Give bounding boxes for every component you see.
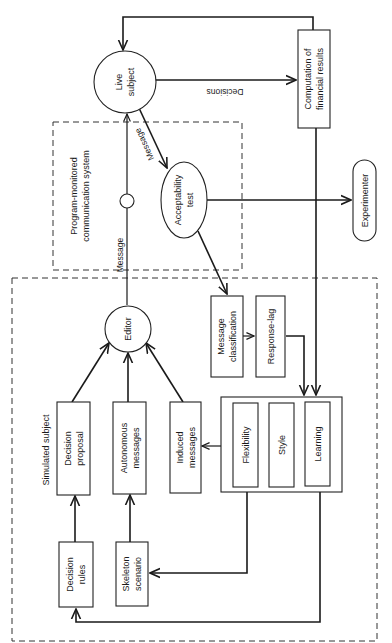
editor-node: Editor: [105, 306, 151, 352]
skeleton-scenario-label-2: scenario: [133, 557, 143, 591]
message-edge-label-1: Message: [132, 126, 156, 162]
live-subject-label-2: subject: [126, 67, 136, 96]
live-subject-node: Live subject: [94, 51, 156, 113]
learning-label: Learning: [313, 426, 323, 461]
live-subject-label-1: Live: [114, 74, 124, 91]
acceptability-test-node: Acceptability test: [161, 162, 207, 238]
style-node: Style: [269, 403, 294, 487]
response-lag-label: Response-lag: [266, 309, 276, 365]
simulated-subject-label: Simulated subject: [41, 414, 51, 486]
message-classification-node: Message classification: [211, 296, 243, 377]
edge-induced-to-editor: [146, 343, 183, 402]
experimenter-label: Experimenter: [360, 174, 370, 228]
style-label: Style: [277, 435, 287, 455]
decision-proposal-node: Decision proposal: [57, 402, 90, 495]
decision-rules-node: Decision rules: [59, 542, 93, 607]
acceptability-label-1: Acceptability: [173, 174, 183, 225]
computation-node: Computation of financial results: [298, 30, 330, 128]
skeleton-scenario-node: Skeleton scenario: [116, 542, 148, 606]
decisions-edge-label: Decisions: [207, 87, 244, 97]
learning-node: Learning: [305, 402, 330, 486]
classification-label-2: classification: [228, 311, 238, 362]
edge-learning-to-rules: [76, 492, 320, 622]
communication-system-label-2: communication system: [81, 150, 91, 242]
skeleton-scenario-label-1: Skeleton: [121, 556, 131, 591]
decision-rules-label-1: Decision: [65, 557, 75, 592]
response-lag-node: Response-lag: [256, 296, 285, 377]
communication-system-label-1: Program-monitored: [69, 157, 79, 235]
induced-messages-label-1: Induced: [175, 431, 185, 463]
flow-diagram: Live subject Computation of financial re…: [0, 0, 392, 643]
edge-proposal-to-editor: [72, 343, 109, 402]
monitor-node: [120, 194, 134, 208]
experimenter-node: Experimenter: [353, 160, 376, 241]
acceptability-label-2: test: [185, 192, 195, 207]
flexibility-node: Flexibility: [233, 403, 258, 487]
autonomous-messages-node: Autonomous messages: [113, 402, 146, 494]
classification-label-1: Message: [216, 318, 226, 355]
edge-acceptability-to-classification: [198, 231, 227, 294]
decision-rules-label-2: rules: [77, 564, 87, 584]
edge-responselag-to-learning: [286, 336, 304, 395]
autonomous-messages-label-2: messages: [131, 427, 141, 469]
autonomous-messages-label-1: Autonomous: [119, 422, 129, 473]
edge-flexibility-to-skeleton: [150, 492, 247, 573]
computation-label-2: financial results: [315, 47, 325, 110]
flexibility-label: Flexibility: [241, 426, 251, 464]
decision-proposal-label-2: proposal: [75, 431, 85, 466]
induced-messages-node: Induced messages: [170, 402, 201, 493]
decision-proposal-label-1: Decision: [63, 431, 73, 466]
edge-computation-to-live-subject: [123, 17, 313, 50]
editor-label: Editor: [123, 317, 133, 341]
induced-messages-label-2: messages: [187, 426, 197, 468]
message-edge-label-2: Message: [115, 237, 125, 272]
computation-label-1: Computation of: [303, 48, 313, 110]
